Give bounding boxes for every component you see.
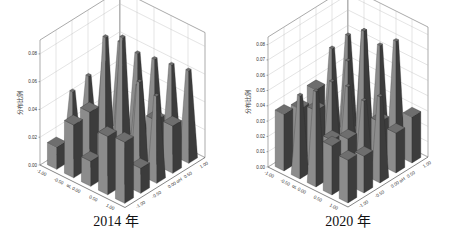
z-tick-label: 0.08: [256, 42, 265, 47]
chart-panel-2014: 0.000.020.040.060.08-1.00-0.50αL 0.000.5…: [0, 0, 232, 240]
y-tick-label: 1.00: [199, 160, 209, 169]
bar-face-side: [364, 151, 373, 193]
y-tick-label: -1.00: [135, 199, 147, 209]
z-tick-label: 0.01: [256, 149, 265, 154]
y-tick-label: 1.00: [422, 160, 432, 169]
x-tick-label: -0.50: [279, 178, 291, 187]
x-tick-label: 0.50: [88, 194, 99, 203]
bar-face-side: [412, 112, 421, 163]
bar3d-chart-2014: 0.000.020.040.060.08-1.00-0.50αL 0.000.5…: [0, 0, 232, 240]
bar-face-front: [98, 132, 107, 195]
z-tick-label: 0.03: [256, 119, 265, 124]
y-tick-label: -0.50: [151, 189, 163, 199]
chart-caption-2020: 2020 年: [232, 210, 464, 230]
z-axis-label: 分布比例: [244, 90, 252, 114]
bar-face-front: [163, 121, 172, 173]
x-tick-label: 0.50: [313, 194, 324, 203]
bar-face-side: [125, 137, 134, 204]
bar-face-side: [348, 155, 357, 203]
bar-face-front: [323, 142, 332, 195]
bar-face-front: [275, 110, 284, 171]
z-tick-label: 0.04: [28, 107, 37, 112]
z-tick-label: 0.05: [256, 88, 265, 93]
z-axis-label: 分布比例: [16, 91, 24, 115]
z-tick-label: 0.08: [28, 51, 37, 56]
z-tick-label: 0.06: [256, 73, 265, 78]
chart-caption-2014: 2014 年: [0, 210, 232, 230]
z-tick-label: 0.02: [28, 135, 37, 140]
y-tick-label: 0.50: [183, 170, 193, 179]
bar-face-side: [173, 121, 182, 174]
bar-face-side: [396, 128, 405, 173]
x-tick-label: -0.50: [53, 176, 65, 185]
z-tick-label: 0.02: [256, 134, 265, 139]
bar-face-side: [108, 131, 117, 195]
z-tick-label: 0.07: [256, 57, 265, 62]
y-tick-label: 0.00 αH: [390, 176, 406, 189]
y-tick-label: -1.00: [358, 199, 370, 209]
z-tick-label: 0.04: [256, 103, 265, 108]
z-tick-label: 0.06: [28, 79, 37, 84]
x-tick-label: -1.00: [36, 168, 48, 177]
bar-face-front: [339, 156, 348, 203]
chart-panel-2020: 0.000.010.020.030.040.050.060.070.08-1.0…: [232, 0, 464, 240]
bar3d-chart-2020: 0.000.010.020.030.040.050.060.070.08-1.0…: [232, 0, 464, 240]
bar-face-side: [74, 120, 83, 178]
bar-face-front: [81, 157, 90, 187]
bar-face-front: [115, 138, 124, 204]
bar-face-side: [284, 109, 293, 171]
z-tick-label: 0.00: [256, 165, 265, 170]
bar-face-front: [64, 120, 73, 177]
bar-face-front: [387, 129, 396, 173]
y-tick-label: 0.00 αH: [167, 177, 183, 190]
y-tick-label: 0.50: [406, 170, 416, 179]
x-tick-label: -1.00: [263, 170, 275, 179]
y-tick-label: -0.50: [374, 189, 386, 199]
z-tick-label: 0.00: [28, 163, 37, 168]
